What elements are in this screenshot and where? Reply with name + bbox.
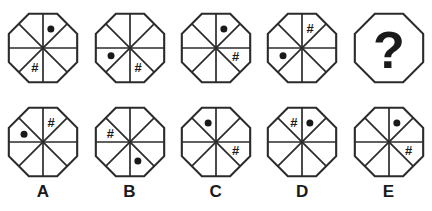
hash-glyph-sector-2: # — [405, 143, 413, 158]
answer-option-B[interactable]: # — [86, 98, 172, 186]
problem-figure-cell: # — [173, 4, 259, 92]
option-label-C: C — [173, 182, 259, 208]
answer-option-C[interactable]: # — [173, 98, 259, 186]
problem-1-svg: # — [3, 8, 83, 88]
answer-option-D[interactable]: # — [259, 98, 345, 186]
problem-figure-cell: # — [259, 4, 345, 92]
problem-5-missing-svg: ? — [349, 8, 429, 88]
hash-glyph-sector-6: # — [106, 126, 114, 141]
dot-glyph-sector-0 — [307, 120, 314, 127]
hash-glyph-sector-0: # — [48, 115, 56, 130]
hash-glyph-sector-2: # — [232, 143, 240, 158]
dot-glyph-sector-7 — [205, 120, 212, 127]
dot-glyph-sector-0 — [220, 26, 227, 33]
dot-glyph-sector-0 — [393, 120, 400, 127]
problem-2-svg: # — [90, 8, 170, 88]
option-A-svg: # — [3, 102, 83, 182]
hash-glyph-sector-7: # — [291, 115, 299, 130]
dot-glyph-sector-5 — [280, 52, 287, 59]
problem-3-svg: # — [176, 8, 256, 88]
option-label-E: E — [346, 182, 432, 208]
missing-figure-cell: ? — [346, 4, 432, 92]
hash-glyph-sector-4: # — [31, 60, 39, 75]
option-C-svg: # — [176, 102, 256, 182]
hash-glyph-sector-0: # — [307, 21, 315, 36]
dot-glyph-sector-0 — [48, 26, 55, 33]
hash-glyph-sector-2: # — [232, 49, 240, 64]
answer-option-A[interactable]: # — [0, 98, 86, 186]
dot-glyph-sector-6 — [21, 131, 28, 138]
answer-option-E[interactable]: # — [346, 98, 432, 186]
problem-4-svg: # — [262, 8, 342, 88]
option-labels-row: ABCDE — [0, 182, 432, 208]
option-E-svg: # — [349, 102, 429, 182]
octagon-matrix-puzzle: ####? ##### ABCDE — [0, 0, 432, 211]
problem-sequence-row: ####? — [0, 4, 432, 92]
answer-options-row: ##### — [0, 98, 432, 186]
problem-figure-cell: # — [86, 4, 172, 92]
option-label-D: D — [259, 182, 345, 208]
option-D-svg: # — [262, 102, 342, 182]
option-B-svg: # — [90, 102, 170, 182]
problem-figure-cell: # — [0, 4, 86, 92]
question-mark-glyph: ? — [373, 21, 405, 79]
hash-glyph-sector-3: # — [134, 60, 142, 75]
dot-glyph-sector-5 — [107, 52, 114, 59]
option-label-B: B — [86, 182, 172, 208]
dot-glyph-sector-3 — [134, 157, 141, 164]
option-label-A: A — [0, 182, 86, 208]
